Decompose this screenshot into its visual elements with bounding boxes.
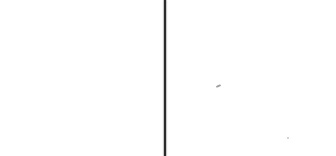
dust-speck-lower [287, 137, 289, 139]
dust-speck-upper [216, 84, 221, 88]
vertical-stroke-line [164, 0, 167, 156]
scanned-page-background [0, 0, 336, 156]
